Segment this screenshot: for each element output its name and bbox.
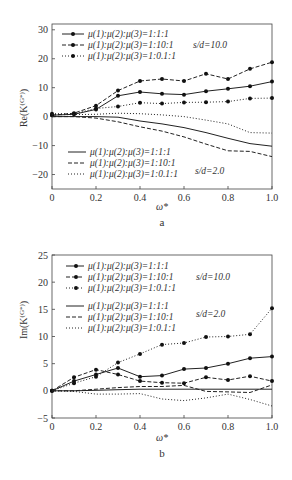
data-point xyxy=(138,352,142,356)
x-tick-label: 1.0 xyxy=(266,192,279,203)
y-axis-label-b: Im(K(G*)) xyxy=(18,301,30,339)
data-point xyxy=(204,335,208,339)
sd-label: s/d=2.0 xyxy=(196,309,226,319)
legend-label: μ(1):μ(2):μ(3)=1:10:1 xyxy=(87,312,174,323)
legend-label: μ(1):μ(2):μ(3)=1:0.1:1 xyxy=(87,323,176,334)
data-point xyxy=(160,77,164,81)
data-point xyxy=(94,368,98,372)
data-point xyxy=(138,101,142,105)
data-point xyxy=(270,80,274,84)
y-axis-label-a: Re(K(G*)) xyxy=(18,89,30,127)
data-point xyxy=(270,60,274,64)
data-point xyxy=(160,102,164,106)
data-point xyxy=(226,77,230,81)
y-tick-label: 0 xyxy=(43,111,48,122)
data-point xyxy=(248,96,252,100)
x-tick-label: 0.4 xyxy=(134,192,147,203)
data-point xyxy=(248,356,252,360)
data-point xyxy=(182,79,186,83)
data-point xyxy=(248,374,252,378)
legend-top-a: μ(1):μ(2):μ(3)=1:1:1 μ(1):μ(2):μ(3)=1:10… xyxy=(62,29,227,62)
x-tick-label: 0.8 xyxy=(222,192,235,203)
data-point xyxy=(116,89,120,93)
x-tick-label: 0.6 xyxy=(178,192,191,203)
y-tick-label: −20 xyxy=(32,169,48,180)
legend-label: μ(1):μ(2):μ(3)=1:1:1 xyxy=(89,147,171,158)
x-tick-label: 0 xyxy=(50,421,55,432)
series-line xyxy=(52,370,272,391)
data-point xyxy=(116,94,120,98)
chart-panel-b: 2520151050−5 00.20.40.60.81.0 μ(1):μ(2):… xyxy=(18,250,278,460)
x-axis-ticks-b: 00.20.40.60.81.0 xyxy=(50,415,279,432)
data-point xyxy=(204,72,208,76)
x-axis-label-a: ω* xyxy=(156,201,168,212)
series-line xyxy=(52,62,272,115)
legend-bottom-a: μ(1):μ(2):μ(3)=1:1:1 μ(1):μ(2):μ(3)=1:10… xyxy=(68,147,225,180)
data-point xyxy=(138,79,142,83)
y-tick-label: 5 xyxy=(43,358,48,369)
data-point xyxy=(116,366,120,370)
series-line xyxy=(52,391,272,406)
y-tick-label: 0 xyxy=(43,385,48,396)
x-tick-label: 0.2 xyxy=(90,421,103,432)
y-tick-label: 15 xyxy=(38,304,48,315)
x-axis-label-b: ω* xyxy=(156,432,168,443)
data-point xyxy=(270,355,274,359)
y-tick-label: 20 xyxy=(38,53,48,64)
data-point xyxy=(204,366,208,370)
legend-label: μ(1):μ(2):μ(3)=1:10:1 xyxy=(89,158,176,169)
data-point xyxy=(94,375,98,379)
x-tick-label: 1.0 xyxy=(266,421,279,432)
data-point xyxy=(226,378,230,382)
data-point xyxy=(182,367,186,371)
data-point xyxy=(248,67,252,71)
data-point xyxy=(226,335,230,339)
data-point xyxy=(116,105,120,109)
sd-label: s/d=10.0 xyxy=(196,272,230,282)
y-tick-label: 20 xyxy=(38,277,48,288)
data-point xyxy=(182,341,186,345)
figure: 3020100−10−20 00.20.40.60.81.0 μ(1):μ(2)… xyxy=(0,0,292,480)
data-point xyxy=(204,375,208,379)
data-point xyxy=(204,100,208,104)
data-point xyxy=(50,112,54,116)
data-point xyxy=(160,381,164,385)
x-tick-label: 0 xyxy=(50,192,55,203)
sd-label: s/d=10.0 xyxy=(193,40,227,50)
data-point xyxy=(138,379,142,383)
data-point xyxy=(116,361,120,365)
series-line xyxy=(52,82,272,116)
data-point xyxy=(160,374,164,378)
data-point xyxy=(116,373,120,377)
y-tick-label: −5 xyxy=(37,413,48,424)
series-line xyxy=(52,98,272,114)
data-point xyxy=(182,100,186,104)
x-tick-label: 0.6 xyxy=(178,421,191,432)
data-point xyxy=(204,89,208,93)
caption-a: a xyxy=(160,216,165,228)
x-tick-label: 0.2 xyxy=(90,192,103,203)
data-point xyxy=(72,112,76,116)
legend-label: μ(1):μ(2):μ(3)=1:0.1:1 xyxy=(87,283,176,294)
y-tick-label: 30 xyxy=(38,24,48,35)
data-point xyxy=(160,92,164,96)
y-tick-label: 10 xyxy=(38,82,48,93)
data-point xyxy=(270,96,274,100)
chart-panel-a: 3020100−10−20 00.20.40.60.81.0 μ(1):μ(2)… xyxy=(18,24,278,228)
data-point xyxy=(270,306,274,310)
data-point xyxy=(226,362,230,366)
data-point xyxy=(94,107,98,111)
legend-label: μ(1):μ(2):μ(3)=1:10:1 xyxy=(87,272,174,283)
data-point xyxy=(226,87,230,91)
legend-top-b: μ(1):μ(2):μ(3)=1:1:1 μ(1):μ(2):μ(3)=1:10… xyxy=(66,261,230,294)
caption-b: b xyxy=(159,447,165,459)
data-point xyxy=(226,100,230,104)
data-point xyxy=(248,332,252,336)
sd-label: s/d=2.0 xyxy=(195,166,225,176)
legend-label: μ(1):μ(2):μ(3)=1:10:1 xyxy=(87,40,174,51)
y-tick-label: −10 xyxy=(32,140,48,151)
legend-label: μ(1):μ(2):μ(3)=1:1:1 xyxy=(87,301,169,312)
x-tick-label: 0.8 xyxy=(222,421,235,432)
x-tick-label: 0.4 xyxy=(134,421,147,432)
data-point xyxy=(138,90,142,94)
